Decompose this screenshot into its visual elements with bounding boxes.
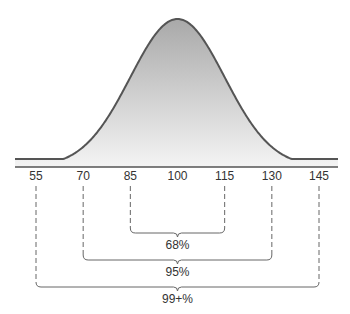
- tick-label-115: 115: [215, 169, 234, 183]
- tick-label-70: 70: [76, 169, 90, 183]
- range-percentage-label: 95%: [165, 265, 189, 279]
- range-bracket-2sd: 95%: [83, 186, 272, 279]
- tick-label-85: 85: [124, 169, 138, 183]
- range-percentage-label: 99+%: [162, 292, 193, 306]
- curly-brace: [36, 282, 319, 291]
- tick-label-100: 100: [167, 169, 187, 183]
- tick-label-55: 55: [29, 169, 43, 183]
- curly-brace: [130, 228, 224, 237]
- range-bracket-1sd: 68%: [130, 186, 224, 252]
- range-percentage-label: 68%: [165, 238, 189, 252]
- x-axis-tick-labels: 557085100115130145: [29, 169, 329, 183]
- bell-curve-area: [15, 19, 338, 167]
- normal-distribution-chart: 557085100115130145 68%95%99+%: [0, 0, 350, 314]
- sd-range-brackets: 68%95%99+%: [36, 186, 319, 306]
- curly-brace: [83, 255, 272, 264]
- tick-label-130: 130: [262, 169, 282, 183]
- tick-label-145: 145: [309, 169, 329, 183]
